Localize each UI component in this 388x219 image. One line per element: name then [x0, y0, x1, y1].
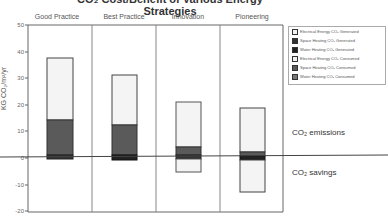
legend-label: Water Heating CO₂ Consumed	[300, 74, 355, 79]
legend-label: Electrical Energy CO₂ Consumed	[300, 56, 359, 61]
legend-item: Electrical Energy CO₂ Consumed	[289, 54, 385, 63]
legend-label: Electrical Energy CO₂ Generated	[300, 29, 359, 34]
legend-swatch	[292, 65, 298, 71]
legend-item: Electrical Energy CO₂ Generated	[289, 27, 385, 36]
legend-label: Water Heating CO₂ Generated	[300, 47, 354, 52]
legend-item: Water Heating CO₂ Consumed	[289, 72, 385, 81]
legend-swatch	[292, 38, 298, 44]
savings-annotation: CO₂ savings	[292, 168, 336, 177]
chart-legend: Electrical Energy CO₂ Generated Space He…	[288, 26, 386, 85]
legend-item: Space Heating CO₂ Consumed	[289, 63, 385, 72]
legend-item: Water Heating CO₂ Generated	[289, 45, 385, 54]
legend-swatch	[292, 74, 298, 80]
legend-label: Space Heating CO₂ Generated	[300, 38, 355, 43]
legend-item: Space Heating CO₂ Generated	[289, 36, 385, 45]
legend-swatch	[292, 29, 298, 35]
legend-swatch	[292, 47, 298, 53]
emissions-annotation: CO₂ emissions	[292, 128, 345, 137]
legend-label: Space Heating CO₂ Consumed	[300, 65, 355, 70]
legend-swatch	[292, 56, 298, 62]
